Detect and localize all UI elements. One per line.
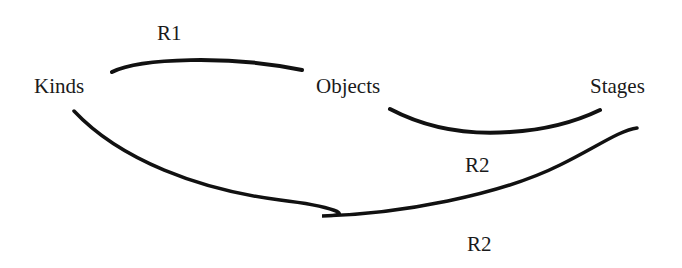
diagram-canvas <box>0 0 682 268</box>
edge-label-objects-stages: R2 <box>465 155 490 176</box>
edge-kinds-objects-curve <box>112 60 302 72</box>
node-kinds: Kinds <box>34 76 84 97</box>
edge-label-kinds-stages: R2 <box>467 234 492 255</box>
node-stages: Stages <box>590 76 645 97</box>
edge-label-kinds-objects: R1 <box>157 23 182 44</box>
node-objects: Objects <box>316 76 380 97</box>
edge-objects-stages-curve <box>390 109 600 133</box>
